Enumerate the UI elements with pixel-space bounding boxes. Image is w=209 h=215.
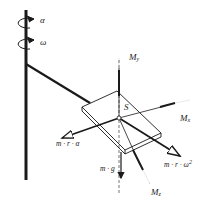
center-label: S	[124, 103, 129, 112]
tangential-force-label: m · r · α	[56, 140, 80, 148]
center-point	[117, 116, 121, 120]
alpha-label: α	[40, 16, 45, 25]
plate	[82, 91, 161, 154]
moment-z-label: Mz	[151, 188, 161, 197]
diagram-canvas: α ω S My Mx Mz m · r · α m · r · ω2 m · …	[0, 0, 209, 215]
gravity-force-label: m · g	[100, 165, 115, 173]
mechanics-diagram	[0, 0, 209, 215]
moment-x-label: Mx	[180, 114, 190, 123]
moment-y-label: My	[129, 53, 139, 62]
centripetal-force-label: m · r · ω2	[164, 159, 192, 169]
omega-label: ω	[40, 38, 46, 47]
